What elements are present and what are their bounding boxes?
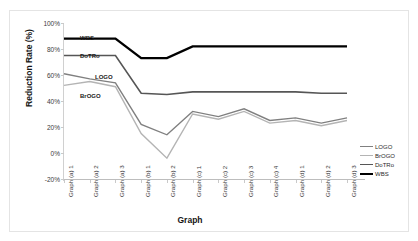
x-axis-tick-label: Graph (b) 2	[169, 153, 176, 197]
x-axis-tick-label: Graph (a) 2	[92, 153, 99, 197]
x-axis-tick-label: Graph (a) 3	[118, 153, 125, 197]
y-axis-tick-mark	[61, 49, 64, 50]
y-axis-tick-mark	[61, 127, 64, 128]
y-axis-tick-mark	[61, 75, 64, 76]
series-line-logo	[64, 74, 347, 135]
legend-item-logo[interactable]: LOGO	[360, 142, 408, 151]
legend-swatch-icon	[360, 155, 373, 156]
legend-item-brogo[interactable]: BrOGO	[360, 151, 408, 160]
x-axis-tick-label: Graph (c) 2	[221, 153, 228, 197]
chart-container: Reduction Rate (%) 100%80%60%40%20%0%-20…	[0, 0, 418, 241]
legend-swatch-icon	[360, 164, 373, 165]
legend-label: DoTRo	[375, 162, 394, 168]
y-axis-tick-label: 0%	[30, 150, 60, 157]
x-axis-tick-label: Graph (c) 3	[247, 153, 254, 197]
legend-label: WBS	[375, 171, 389, 177]
legend-label: BrOGO	[375, 153, 395, 159]
y-axis-tick-label: 100%	[30, 20, 60, 27]
legend-swatch-icon	[360, 146, 373, 147]
chart-frame: Reduction Rate (%) 100%80%60%40%20%0%-20…	[9, 10, 409, 232]
y-axis-tick-label: 80%	[30, 46, 60, 53]
inline-series-label-wbs: WBS	[80, 35, 94, 41]
x-axis-tick-label: Graph (d) 1	[298, 153, 305, 197]
series-lines	[64, 23, 365, 180]
legend-item-wbs[interactable]: WBS	[360, 169, 408, 178]
x-axis-tick-label: Graph (d) 3	[350, 153, 357, 197]
x-axis-title: Graph	[10, 215, 370, 225]
chart-legend: LOGOBrOGODoTRoWBS	[360, 142, 408, 178]
x-axis-tick-label: Graph (c) 1	[195, 153, 202, 197]
y-axis-tick-mark	[61, 23, 64, 24]
x-axis-tick-label: Graph (b) 1	[144, 153, 151, 197]
y-axis-tick-mark	[61, 153, 64, 154]
legend-item-dotro[interactable]: DoTRo	[360, 160, 408, 169]
x-axis-tick-label: Graph (c) 4	[272, 153, 279, 197]
x-axis-tick-label: Graph (a) 1	[67, 153, 74, 197]
inline-series-label-logo: LOGO	[95, 74, 113, 80]
y-axis-tick-label: 40%	[30, 98, 60, 105]
y-axis-tick-mark	[61, 179, 64, 180]
y-axis-tick-label: 60%	[30, 72, 60, 79]
legend-swatch-icon	[360, 173, 373, 175]
x-axis-tick-label: Graph (d) 2	[324, 153, 331, 197]
inline-series-label-dotro: DoTRo	[80, 53, 100, 59]
inline-series-label-brogo: BrOGO	[80, 93, 101, 99]
y-axis-tick-label: 20%	[30, 124, 60, 131]
legend-label: LOGO	[375, 144, 392, 150]
y-axis-tick-mark	[61, 101, 64, 102]
